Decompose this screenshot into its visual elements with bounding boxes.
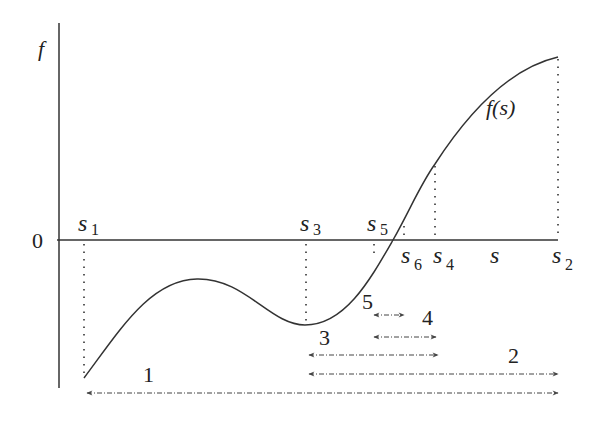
- point-label-s3: s 3: [300, 210, 321, 238]
- interval-label-3: 3: [319, 325, 330, 350]
- svg-text:2: 2: [565, 256, 573, 273]
- bracketing-diagram: f 0 f(s) s s 1 s 3 s 5 s 6 s 4 s 2 5 4 3…: [0, 0, 600, 422]
- interval-label-5: 5: [362, 289, 373, 314]
- svg-text:6: 6: [414, 256, 422, 273]
- zero-label: 0: [32, 228, 43, 253]
- interval-label-2: 2: [508, 343, 519, 368]
- svg-text:5: 5: [380, 221, 388, 238]
- y-axis-label: f: [38, 36, 47, 61]
- point-label-s6: s 6: [401, 242, 422, 273]
- interval-label-4: 4: [422, 305, 433, 330]
- svg-text:s: s: [300, 210, 309, 236]
- svg-text:s: s: [401, 242, 410, 268]
- x-axis-label: s: [490, 242, 499, 268]
- svg-text:s: s: [433, 242, 442, 268]
- svg-text:1: 1: [91, 221, 99, 238]
- svg-text:s: s: [367, 210, 376, 236]
- curve-label: f(s): [486, 95, 515, 120]
- point-label-s1: s 1: [78, 210, 99, 238]
- svg-text:s: s: [78, 210, 87, 236]
- point-label-s5: s 5: [367, 210, 388, 238]
- svg-text:s: s: [552, 242, 561, 268]
- svg-text:4: 4: [446, 256, 454, 273]
- point-label-s4: s 4: [433, 242, 454, 273]
- svg-text:3: 3: [313, 221, 321, 238]
- interval-label-1: 1: [143, 362, 154, 387]
- point-label-s2: s 2: [552, 242, 573, 273]
